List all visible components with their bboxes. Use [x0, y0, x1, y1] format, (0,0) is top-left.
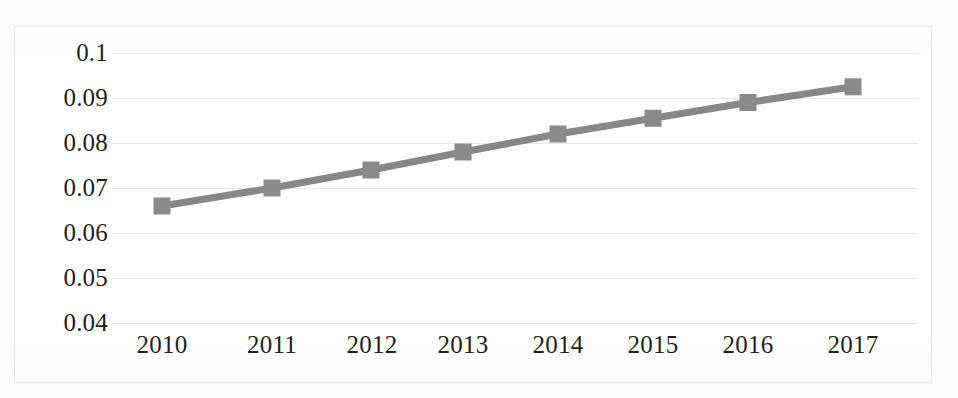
figure-border	[14, 26, 932, 383]
chart-page: 0.1 0.09 0.08 0.07 0.06 0.05 0.04 2010 2…	[0, 0, 958, 398]
